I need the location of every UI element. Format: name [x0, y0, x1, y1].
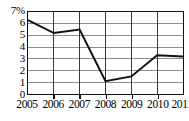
y-tick-label: 6	[20, 17, 25, 28]
series-polyline	[28, 20, 183, 81]
x-axis-labels: 2005 2006 2007 2008 2009 2010 2011	[0, 98, 189, 118]
x-tick-label: 2009	[121, 98, 142, 111]
x-tick-label: 2007	[69, 98, 90, 111]
y-tick-label: 4	[20, 41, 25, 52]
y-tick-label: 1	[20, 77, 25, 88]
x-tick-label: 2010	[147, 98, 168, 111]
plot-area	[27, 11, 184, 95]
line-chart: 7% 6 5 4 3 2 1 0	[0, 0, 189, 121]
y-tick-label: 5	[20, 29, 25, 40]
x-tick-label: 2005	[16, 98, 37, 111]
y-tick-label: 2	[20, 65, 25, 76]
x-tick-label: 2011	[172, 98, 189, 111]
x-tick-label: 2008	[95, 98, 116, 111]
y-tick-label: 7%	[11, 5, 25, 16]
data-series-line	[28, 12, 183, 94]
y-axis-labels: 7% 6 5 4 3 2 1 0	[0, 0, 26, 104]
x-tick-label: 2006	[42, 98, 63, 111]
y-tick-label: 3	[20, 53, 25, 64]
